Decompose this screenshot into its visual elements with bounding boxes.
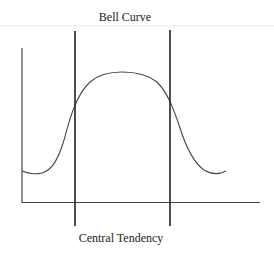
bell-curve-diagram <box>0 0 274 259</box>
bell-curve <box>22 72 226 174</box>
diagram-caption: Central Tendency <box>0 231 242 246</box>
